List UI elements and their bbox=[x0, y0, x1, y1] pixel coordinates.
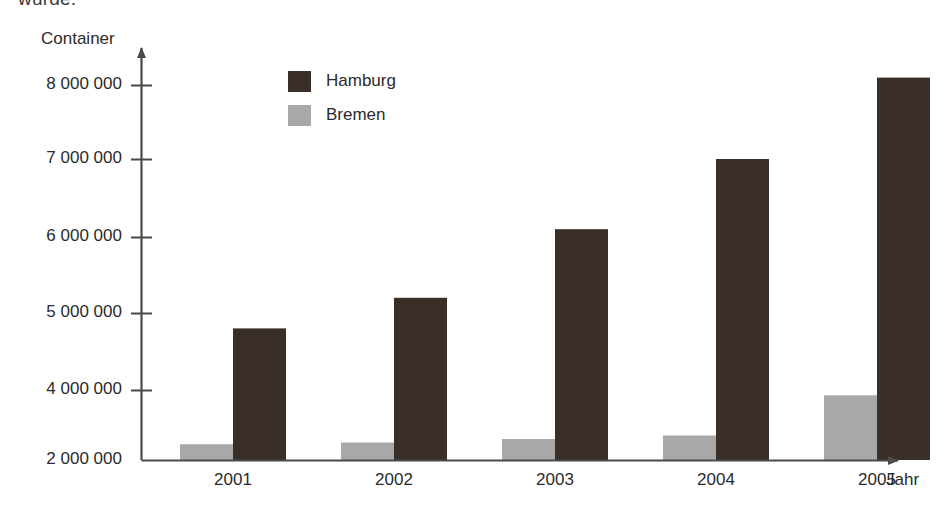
legend-item-hamburg: Hamburg bbox=[288, 64, 396, 98]
y-axis-tick-label: 4 000 000 bbox=[14, 379, 122, 399]
legend-item-bremen: Bremen bbox=[288, 98, 396, 132]
bar-hamburg-2005 bbox=[877, 78, 930, 460]
y-axis-tick-label: 5 000 000 bbox=[14, 302, 122, 322]
x-axis-tick-label-2001: 2001 bbox=[193, 470, 273, 490]
x-axis-tick-label-2005: 2005 bbox=[837, 470, 917, 490]
bar-hamburg-2004 bbox=[716, 159, 769, 460]
legend-label-hamburg: Hamburg bbox=[326, 71, 396, 91]
chart-legend: HamburgBremen bbox=[288, 64, 396, 132]
bar-hamburg-2001 bbox=[233, 328, 286, 460]
bar-hamburg-2002 bbox=[394, 298, 447, 460]
y-axis-tick-label: 7 000 000 bbox=[14, 148, 122, 168]
bar-bremen-2005 bbox=[824, 395, 877, 460]
bar-hamburg-2003 bbox=[555, 229, 608, 460]
legend-swatch-bremen bbox=[288, 105, 311, 126]
bars-layer bbox=[180, 78, 930, 460]
bar-bremen-2003 bbox=[502, 439, 555, 460]
legend-label-bremen: Bremen bbox=[326, 105, 386, 125]
bar-bremen-2002 bbox=[341, 443, 394, 461]
y-axis-tick-label: 2 000 000 bbox=[14, 449, 122, 469]
x-axis-tick-label-2003: 2003 bbox=[515, 470, 595, 490]
x-axis-tick-label-2004: 2004 bbox=[676, 470, 756, 490]
y-axis-tick-label: 6 000 000 bbox=[14, 226, 122, 246]
y-axis-tick-label: 8 000 000 bbox=[14, 74, 122, 94]
x-axis-tick-label-2002: 2002 bbox=[354, 470, 434, 490]
chart-page: wurde. Container Jahr 8 000 0007 000 000… bbox=[0, 0, 952, 512]
chart-plot-area bbox=[0, 0, 952, 512]
legend-swatch-hamburg bbox=[288, 71, 311, 92]
bar-bremen-2004 bbox=[663, 436, 716, 461]
bar-bremen-2001 bbox=[180, 444, 233, 460]
